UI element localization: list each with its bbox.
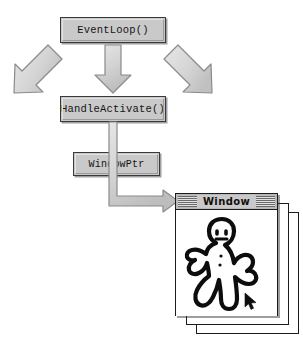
diagram-canvas: EventLoop() HandleActivate() WindowPtr: [0, 0, 303, 350]
node-eventloop: EventLoop(): [60, 17, 166, 43]
arrow-branch-left: [14, 45, 62, 93]
node-windowptr-label: WindowPtr: [89, 159, 145, 170]
node-windowptr: WindowPtr: [73, 152, 160, 176]
window-titlebar[interactable]: Window: [176, 194, 277, 210]
window-title: Window: [197, 195, 256, 208]
front-window[interactable]: Window: [175, 193, 278, 316]
arrow-eventloop-to-handleactivate: [95, 45, 131, 93]
node-handleactivate-label: HandleActivate(): [61, 103, 165, 115]
window-content-area[interactable]: [176, 210, 277, 316]
mouse-cursor-icon: [244, 293, 258, 311]
node-handleactivate: HandleActivate(): [60, 96, 166, 122]
arrow-branch-right: [164, 45, 212, 93]
node-eventloop-label: EventLoop(): [77, 24, 149, 36]
gingerbread-figure-doodle: [176, 210, 277, 316]
